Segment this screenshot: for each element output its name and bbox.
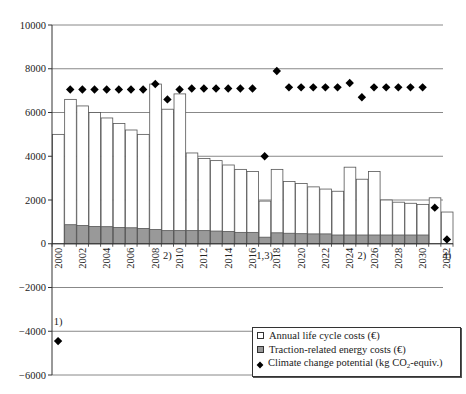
annual-cost-bar bbox=[53, 134, 65, 243]
climate-point bbox=[66, 85, 74, 93]
x-tick-label: 2022 bbox=[320, 248, 331, 269]
legend-item-climate: Climate change potential (kg CO2-equiv.) bbox=[257, 356, 456, 374]
legend-label-annual: Annual life cycle costs (€) bbox=[269, 329, 380, 343]
energy-cost-bar bbox=[381, 235, 393, 244]
y-tick-label: 6000 bbox=[25, 107, 46, 118]
y-tick-labels: −6000−4000−20000200040006000800010000 bbox=[19, 20, 46, 381]
annotation-label: 1) bbox=[54, 316, 63, 328]
y-tick-label: 10000 bbox=[20, 20, 46, 31]
energy-cost-bar bbox=[65, 225, 77, 244]
climate-point bbox=[285, 83, 293, 91]
energy-cost-bar bbox=[198, 231, 210, 244]
energy-cost-bar bbox=[344, 235, 356, 244]
annual-cost-bar bbox=[150, 84, 162, 244]
climate-point bbox=[321, 83, 329, 91]
energy-cost-bar bbox=[101, 227, 113, 244]
annual-cost-bar bbox=[77, 106, 89, 244]
energy-cost-bar bbox=[393, 235, 405, 244]
y-tick-label: −2000 bbox=[19, 282, 46, 293]
legend-label-energy: Traction-related energy costs (€) bbox=[269, 343, 406, 357]
climate-point bbox=[370, 83, 378, 91]
annual-cost-bar bbox=[65, 99, 77, 243]
climate-point bbox=[224, 84, 232, 92]
diamond-icon bbox=[257, 361, 264, 368]
annual-cost-bar bbox=[138, 134, 150, 243]
climate-point bbox=[309, 83, 317, 91]
annual-cost-bar bbox=[174, 94, 186, 244]
x-tick-label: 2012 bbox=[198, 248, 209, 269]
annual-cost-bar bbox=[89, 113, 101, 244]
energy-cost-bar bbox=[332, 235, 344, 244]
annual-cost-bar bbox=[186, 153, 198, 244]
climate-point bbox=[115, 85, 123, 93]
annual-cost-bar bbox=[162, 109, 174, 244]
x-tick-label: 2002 bbox=[77, 248, 88, 269]
energy-cost-bar bbox=[259, 237, 271, 244]
climate-point bbox=[248, 84, 256, 92]
legend: Annual life cycle costs (€) Traction-rel… bbox=[252, 327, 461, 377]
legend-item-energy: Traction-related energy costs (€) bbox=[257, 343, 456, 357]
energy-cost-bar bbox=[356, 235, 368, 244]
annual-cost-bar bbox=[356, 179, 368, 244]
climate-point bbox=[406, 83, 414, 91]
energy-cost-bar bbox=[186, 231, 198, 244]
climate-point bbox=[175, 85, 183, 93]
climate-point bbox=[297, 83, 305, 91]
x-tick-label: 2020 bbox=[296, 248, 307, 269]
x-tick-label: 2008 bbox=[150, 248, 161, 269]
energy-cost-bar bbox=[296, 234, 308, 244]
energy-cost-bar bbox=[247, 232, 259, 243]
climate-point bbox=[346, 79, 354, 87]
annotation-label: 4) bbox=[443, 250, 452, 262]
energy-cost-bar bbox=[150, 230, 162, 244]
x-tick-label: 2000 bbox=[53, 248, 64, 269]
energy-cost-bar bbox=[320, 234, 332, 244]
annual-cost-bar bbox=[344, 167, 356, 244]
y-tick-label: −6000 bbox=[19, 370, 46, 381]
annotation-label: 2) bbox=[163, 250, 172, 262]
energy-cost-bar bbox=[77, 226, 89, 244]
gray-square-icon bbox=[257, 346, 264, 353]
energy-cost-bar bbox=[271, 233, 283, 244]
annual-cost-bar bbox=[113, 123, 125, 243]
climate-point bbox=[212, 84, 220, 92]
climate-point bbox=[382, 83, 390, 91]
energy-cost-bar bbox=[405, 235, 417, 244]
annual-cost-bar bbox=[125, 130, 137, 244]
climate-point bbox=[418, 83, 426, 91]
climate-point bbox=[90, 85, 98, 93]
energy-cost-bar bbox=[308, 234, 320, 244]
legend-item-annual: Annual life cycle costs (€) bbox=[257, 329, 456, 343]
climate-point bbox=[54, 337, 62, 345]
climate-point bbox=[102, 85, 110, 93]
x-tick-label: 2030 bbox=[417, 248, 428, 269]
climate-point bbox=[273, 67, 281, 75]
climate-point bbox=[358, 93, 366, 101]
x-tick-label: 2010 bbox=[174, 248, 185, 269]
x-tick-label: 2014 bbox=[223, 247, 234, 269]
legend-label-climate: Climate change potential (kg CO2-equiv.) bbox=[268, 356, 443, 374]
energy-cost-bar bbox=[368, 235, 380, 244]
x-tick-label: 2026 bbox=[369, 248, 380, 269]
annotation-label: 2) bbox=[357, 250, 366, 262]
x-tick-labels: 2000200220042006200820102012201420162018… bbox=[53, 247, 453, 269]
energy-cost-bar bbox=[235, 232, 247, 243]
climate-point bbox=[260, 152, 268, 160]
energy-cost-bar bbox=[283, 233, 295, 244]
climate-point bbox=[394, 83, 402, 91]
energy-cost-bar bbox=[138, 228, 150, 243]
annual-cost-bars bbox=[53, 84, 454, 244]
energy-cost-bar bbox=[162, 231, 174, 244]
annual-cost-bar bbox=[101, 118, 113, 244]
climate-point bbox=[127, 85, 135, 93]
white-square-icon bbox=[257, 332, 264, 339]
annotation-label: 1,3) bbox=[256, 250, 273, 262]
climate-point bbox=[188, 84, 196, 92]
y-tick-label: −4000 bbox=[19, 326, 46, 337]
climate-point bbox=[78, 85, 86, 93]
y-tick-label: 4000 bbox=[25, 151, 46, 162]
x-tick-label: 2006 bbox=[125, 248, 136, 269]
annual-cost-bar bbox=[368, 172, 380, 244]
energy-cost-bar bbox=[174, 231, 186, 244]
energy-cost-bar bbox=[210, 231, 222, 244]
